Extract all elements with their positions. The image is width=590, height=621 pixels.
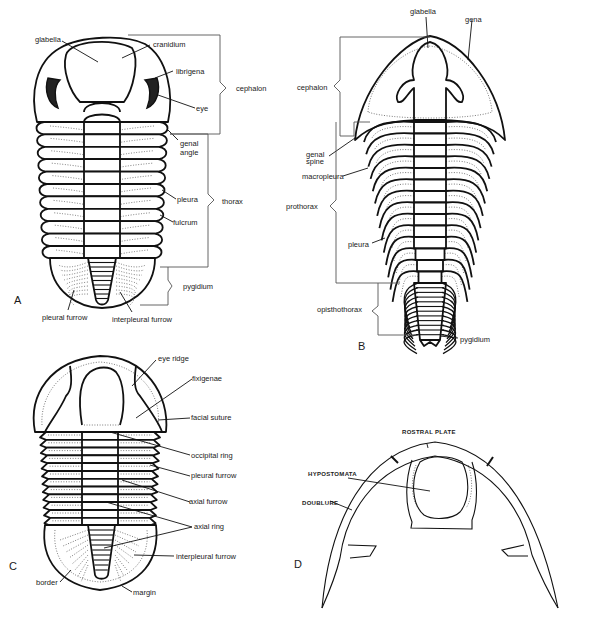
axial-ring: [414, 214, 446, 226]
label-macropleura: macropleura: [302, 172, 345, 181]
label-doublure: DOUBLURE: [302, 500, 338, 506]
axial-ring: [414, 237, 446, 249]
axial-ring: [84, 159, 120, 171]
axial-ring: [414, 191, 446, 203]
label-genal-angle-line1: genal: [180, 139, 199, 148]
panel-letter-a: A: [14, 294, 22, 306]
pleural-furrow-line: [446, 230, 468, 249]
panel-letter-d: D: [294, 558, 302, 570]
axial-ring: [82, 448, 118, 456]
axial-ring: [84, 234, 120, 246]
axial-ring: [82, 471, 118, 479]
label-eye-ridge: eye ridge: [158, 354, 189, 363]
label-genal-angle-line2: angle: [180, 148, 198, 157]
pleural-furrow-line: [387, 207, 414, 224]
pleural-furrow-line: [372, 127, 414, 138]
panel-letter-c: C: [9, 560, 17, 572]
label-rostral-plate: ROSTRAL PLATE: [402, 429, 456, 435]
label-pleural-furrow: pleural furrow: [42, 313, 88, 322]
axial-ring: [414, 145, 446, 157]
axial-ring: [82, 455, 118, 463]
label-prothorax: prothorax: [286, 202, 318, 211]
label-thorax: thorax: [222, 197, 243, 206]
label-pygidium: pygidium: [183, 282, 213, 291]
axial-ring: [84, 184, 120, 196]
axial-ring: [419, 272, 442, 284]
label-pleura-b: pleura: [348, 240, 370, 249]
axial-ring: [84, 172, 120, 184]
label-gena: gena: [465, 15, 483, 24]
label-border: border: [36, 578, 58, 587]
label-cephalon: cephalon: [236, 84, 266, 93]
axial-ring: [82, 440, 118, 448]
label-occipital-ring: occipital ring: [191, 451, 233, 460]
label-pleura: pleura: [177, 195, 199, 204]
pleural-furrow-line: [446, 127, 488, 138]
axial-ring: [84, 221, 120, 233]
pleural-furrow-line: [385, 196, 414, 212]
axial-ring: [82, 510, 118, 518]
axial-ring: [82, 502, 118, 510]
axial-ring: [416, 249, 445, 261]
axial-ring: [414, 180, 446, 192]
axial-ring: [84, 122, 120, 134]
axial-ring: [417, 260, 443, 272]
label-eye: eye: [196, 104, 208, 113]
label-margin: margin: [133, 588, 156, 597]
label-pygidium-b: pygidium: [460, 335, 490, 344]
axial-ring: [414, 168, 446, 180]
label-librigena: librigena: [176, 67, 205, 76]
axial-ring: [414, 226, 446, 238]
axial-ring: [82, 479, 118, 487]
label-fixigenae: fixigenae: [192, 374, 222, 383]
axial-ring: [82, 494, 118, 502]
panel-d: ROSTRAL PLATE HYPOSTOMATA DOUBLURE D: [294, 429, 558, 608]
label-axial-ring: axial ring: [194, 522, 224, 531]
pleural-furrow-line: [446, 219, 470, 237]
panel-c: eye ridge fixigenae facial suture occipi…: [9, 354, 237, 597]
axial-ring: [84, 147, 120, 159]
axial-ring: [414, 203, 446, 215]
label-glabella: glabella: [35, 35, 62, 44]
axial-ring: [84, 209, 120, 221]
trilobite-anatomy-figure: glabella cranidium librigena eye cephalo…: [0, 0, 590, 621]
axial-ring: [84, 134, 120, 146]
label-axial-furrow: axial furrow: [189, 497, 228, 506]
label-genal-spine-line2: spine: [306, 157, 324, 166]
axial-ring: [82, 487, 118, 495]
axial-ring: [414, 122, 446, 134]
label-interpleural-furrow: interpleural furrow: [112, 315, 173, 324]
label-fulcrum: fulcrum: [173, 218, 198, 227]
panel-d-cephalon-underside-drawing: [322, 442, 558, 608]
pleural-furrow-line: [446, 207, 473, 224]
label-glabella-b: glabella: [410, 7, 437, 16]
panel-b: glabella gena cephalon genal spine macro…: [286, 7, 505, 354]
label-interpleural-furrow-c: interpleural furrow: [176, 552, 237, 561]
panel-a: glabella cranidium librigena eye cephalo…: [14, 35, 266, 324]
label-hypostomata: HYPOSTOMATA: [308, 471, 357, 477]
axial-ring: [414, 157, 446, 169]
pleural-furrow-line: [390, 219, 414, 237]
panel-letter-b: B: [358, 340, 365, 352]
axial-ring: [84, 196, 120, 208]
label-cranidium: cranidium: [153, 40, 186, 49]
pleural-furrow-line: [392, 230, 414, 249]
axial-ring: [82, 463, 118, 471]
pleural-furrow-line: [446, 196, 475, 212]
axial-ring: [84, 246, 120, 258]
axial-ring: [414, 134, 446, 146]
label-facial-suture: facial suture: [191, 413, 231, 422]
label-opisthothorax: opisthothorax: [317, 305, 362, 314]
panel-a-trilobite-drawing: [34, 38, 170, 308]
label-cephalon-b: cephalon: [297, 83, 327, 92]
label-pleural-furrow-c: pleural furrow: [191, 471, 237, 480]
